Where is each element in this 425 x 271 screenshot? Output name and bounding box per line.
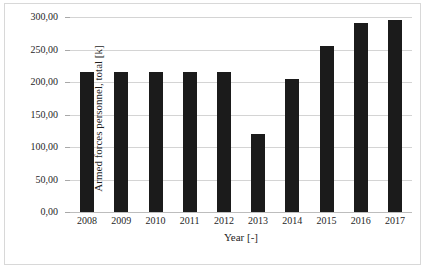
y-axis-tick-label: 200,00 xyxy=(31,77,59,87)
y-axis-tick-mark xyxy=(65,212,70,213)
x-axis-tick-label: 2014 xyxy=(282,215,302,227)
x-axis-tick-label: 2011 xyxy=(180,215,200,227)
bar xyxy=(388,20,402,212)
bar xyxy=(183,72,197,212)
x-axis-tick-label: 2009 xyxy=(111,215,131,227)
x-axis-tick-label: 2017 xyxy=(385,215,405,227)
bar xyxy=(354,23,368,212)
y-axis-tick-label: 50,00 xyxy=(36,175,59,185)
x-axis-tick-label: 2016 xyxy=(351,215,371,227)
y-axis-tick-labels: 0,0050,00100,00150,00200,00250,00300,00 xyxy=(0,17,64,212)
plot-area: Armed forces personnel, total [k] xyxy=(70,17,412,212)
y-axis-tick-label: 100,00 xyxy=(31,142,59,152)
y-axis-tick-label: 0,00 xyxy=(41,207,59,217)
x-axis-tick-label: 2012 xyxy=(214,215,234,227)
bar xyxy=(251,134,265,212)
x-axis-tick-label: 2013 xyxy=(248,215,268,227)
bar xyxy=(320,46,334,212)
x-axis-tick-labels: 2008200920102011201220132014201520162017 xyxy=(70,215,412,229)
x-axis-title: Year [-] xyxy=(70,231,412,244)
y-axis-title: Armed forces personnel, total [k] xyxy=(92,24,105,214)
y-axis-tick-label: 300,00 xyxy=(31,12,59,22)
y-axis-tick-label: 250,00 xyxy=(31,45,59,55)
y-axis-tick-label: 150,00 xyxy=(31,110,59,120)
bar-series xyxy=(70,17,412,212)
gridline xyxy=(70,212,412,213)
bar xyxy=(285,79,299,212)
bar xyxy=(114,72,128,212)
x-axis-tick-label: 2008 xyxy=(77,215,97,227)
bar xyxy=(149,72,163,212)
chart-figure: 0,0050,00100,00150,00200,00250,00300,00 … xyxy=(0,0,425,271)
x-axis-tick-label: 2010 xyxy=(146,215,166,227)
x-axis-tick-label: 2015 xyxy=(317,215,337,227)
bar xyxy=(217,72,231,212)
